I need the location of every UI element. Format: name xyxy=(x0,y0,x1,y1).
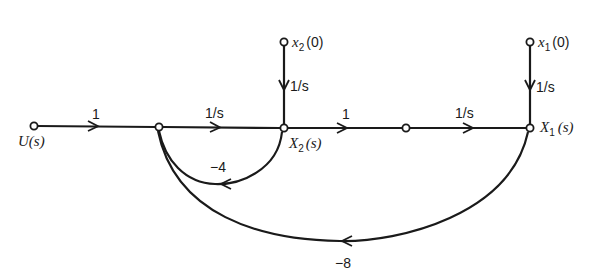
gain-feedback-minus8: −8 xyxy=(335,256,351,270)
node-x2-initial xyxy=(280,38,287,45)
branch-feedback-minus8 xyxy=(158,131,528,241)
label-x1: X1(s) xyxy=(540,120,574,138)
gain-x2-to-m: 1 xyxy=(342,107,350,121)
gain-a-to-x2: 1/s xyxy=(205,106,224,120)
gain-m-to-x1: 1/s xyxy=(455,106,474,120)
node-a xyxy=(155,123,162,130)
node-x1-initial xyxy=(526,38,533,45)
node-x1 xyxy=(526,124,533,131)
label-u: U(s) xyxy=(18,134,45,149)
label-x1-initial: x1(0) xyxy=(538,35,569,53)
node-m xyxy=(402,124,409,131)
label-x2: X2(s) xyxy=(289,136,322,154)
gain-feedback-minus4: −4 xyxy=(210,160,226,174)
gain-x1init-to-x1: 1/s xyxy=(536,80,555,94)
node-u xyxy=(30,122,37,129)
gain-u-to-a: 1 xyxy=(92,107,100,121)
node-x2 xyxy=(280,124,287,131)
label-x2-initial: x2(0) xyxy=(292,35,323,53)
gain-x2init-to-x2: 1/s xyxy=(290,79,309,93)
